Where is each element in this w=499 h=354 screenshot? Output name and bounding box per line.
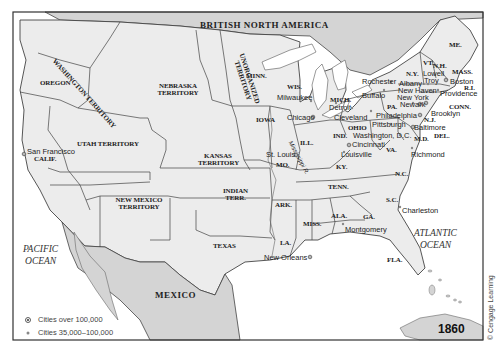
city-louisville: Louisville xyxy=(341,151,372,159)
city-baltimore: Baltimore xyxy=(414,124,446,132)
city-chicago: Chicago xyxy=(287,114,315,122)
city-charleston: Charleston xyxy=(402,207,438,215)
city-st-louis: St. Louis xyxy=(266,151,295,159)
map-year: 1860 xyxy=(438,322,465,336)
city-milwaukee: Milwaukee xyxy=(277,94,312,102)
large-city-dot-icon xyxy=(22,316,34,324)
city-detroit: Detroit xyxy=(329,104,351,112)
city-brooklyn: Brooklyn xyxy=(431,110,460,118)
city-washington-dc: Washington, D.C. xyxy=(353,132,412,140)
city-buffalo: Buffalo xyxy=(362,92,385,100)
city-cleveland: Cleveland xyxy=(334,114,367,122)
city-philadelphia: Philadelphia xyxy=(376,112,417,120)
legend-row-large-cities: Cities over 100,000 xyxy=(22,313,113,326)
city-new-orleans: New Orleans xyxy=(264,254,307,262)
city-montgomery: Montgomery xyxy=(345,226,387,234)
city-pittsburgh: Pittsburgh xyxy=(372,121,406,129)
city-troy: Troy xyxy=(424,77,439,85)
city-cincinnati: Cincinnati xyxy=(352,141,385,149)
city-providence: Providence xyxy=(440,90,478,98)
copyright-credit: © Cengage Learning xyxy=(487,275,494,340)
city-rochester: Rochester xyxy=(362,78,396,86)
city-newark: Newark xyxy=(400,101,425,109)
city-boston: Boston xyxy=(450,78,473,86)
city-san-francisco: San Francisco xyxy=(27,148,75,156)
map-legend: Cities over 100,000 Cities 35,000–100,00… xyxy=(22,313,113,339)
city-markers xyxy=(0,0,499,354)
legend-row-medium-cities: Cities 35,000–100,000 xyxy=(22,326,113,339)
legend-label-large: Cities over 100,000 xyxy=(38,315,103,324)
legend-label-medium: Cities 35,000–100,000 xyxy=(38,328,113,337)
medium-city-dot-icon xyxy=(22,329,34,337)
city-richmond: Richmond xyxy=(411,151,445,159)
